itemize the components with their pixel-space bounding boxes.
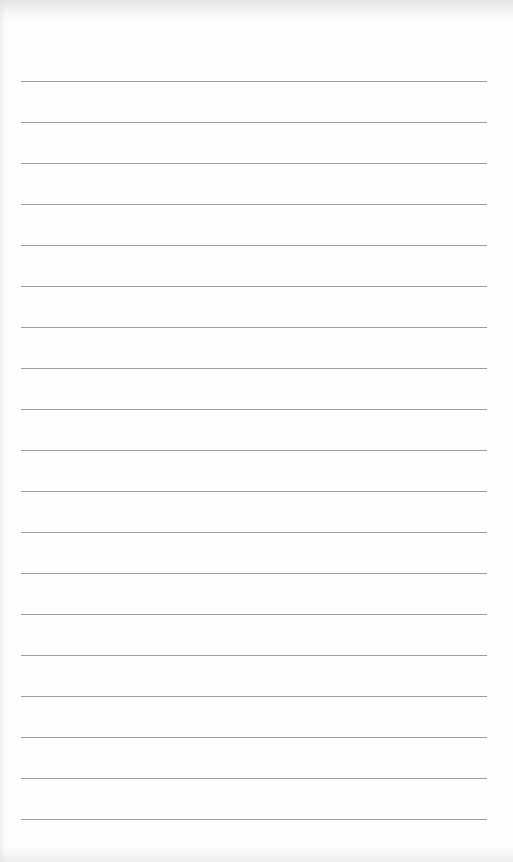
- ruled-line: [21, 450, 487, 451]
- ruled-line: [21, 122, 487, 123]
- ruled-line: [21, 286, 487, 287]
- ruled-line: [21, 81, 487, 82]
- ruled-line: [21, 614, 487, 615]
- ruled-line: [21, 368, 487, 369]
- ruled-line: [21, 655, 487, 656]
- ruled-line: [21, 696, 487, 697]
- bottom-edge-shadow: [0, 846, 513, 862]
- ruled-line: [21, 163, 487, 164]
- ruled-line: [21, 573, 487, 574]
- ruled-line: [21, 737, 487, 738]
- left-edge-shadow: [0, 0, 6, 862]
- ruled-line: [21, 327, 487, 328]
- lined-paper-page: [0, 0, 513, 862]
- ruled-line: [21, 409, 487, 410]
- ruled-line: [21, 204, 487, 205]
- ruled-line: [21, 778, 487, 779]
- ruled-line: [21, 532, 487, 533]
- ruled-line: [21, 819, 487, 820]
- top-edge-shadow: [0, 0, 513, 22]
- ruled-line: [21, 245, 487, 246]
- ruled-line: [21, 491, 487, 492]
